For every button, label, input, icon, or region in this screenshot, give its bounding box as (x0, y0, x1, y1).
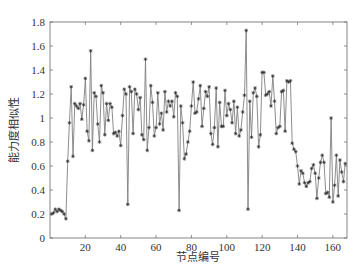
data-point-marker (195, 110, 199, 114)
y-tick-label: 0.6 (31, 160, 45, 172)
data-point-marker (274, 132, 278, 136)
data-point-marker (147, 126, 151, 130)
data-point-marker (255, 95, 259, 99)
data-point-marker (165, 110, 169, 114)
data-point-marker (292, 147, 296, 151)
data-point-marker (55, 210, 59, 214)
data-point-marker (257, 145, 261, 149)
data-point-marker (211, 143, 215, 147)
data-point-marker (183, 157, 187, 161)
data-point-marker (138, 96, 142, 100)
data-point-marker (52, 211, 56, 215)
data-point-marker (181, 121, 185, 125)
y-axis-label: 能力度相似性 (7, 97, 21, 163)
data-point-marker (198, 84, 202, 88)
data-point-marker (151, 101, 155, 105)
data-point-marker (225, 114, 229, 118)
data-point-marker (71, 155, 75, 159)
data-point-marker (271, 74, 275, 78)
data-point-marker (241, 110, 245, 114)
data-point-marker (158, 122, 162, 126)
data-point-marker (326, 191, 330, 195)
data-point-marker (319, 161, 323, 165)
y-tick-label: 1.6 (31, 40, 45, 52)
data-point-marker (68, 121, 72, 125)
y-tick-label: 0.2 (31, 208, 45, 220)
data-point-marker (175, 95, 179, 99)
x-axis-label: 节点编号 (176, 250, 220, 264)
data-point-marker (243, 93, 247, 97)
data-point-marker (209, 132, 213, 136)
data-point-marker (91, 149, 95, 153)
data-point-marker (84, 77, 88, 81)
data-point-marker (161, 128, 165, 132)
data-point-marker (144, 57, 148, 61)
data-point-marker (114, 131, 118, 135)
data-point-marker (172, 115, 176, 119)
data-point-marker (207, 85, 211, 89)
data-point-marker (98, 140, 102, 144)
data-point-marker (343, 162, 347, 166)
data-point-marker (310, 167, 314, 171)
data-point-marker (303, 181, 307, 185)
data-point-marker (124, 92, 128, 96)
data-point-marker (107, 119, 111, 123)
data-point-marker (216, 145, 220, 149)
data-point-marker (342, 180, 346, 184)
data-point-marker (78, 102, 82, 106)
data-point-marker (213, 126, 217, 130)
data-point-marker (333, 183, 337, 187)
data-point-marker (328, 195, 332, 199)
data-point-marker (308, 180, 312, 184)
data-point-marker (130, 90, 134, 94)
data-point-marker (312, 163, 316, 167)
data-point-marker (202, 107, 206, 111)
data-point-marker (64, 217, 68, 221)
data-point-marker (82, 103, 86, 107)
data-point-marker (223, 89, 227, 93)
data-point-marker (296, 164, 300, 168)
data-point-marker (234, 132, 238, 136)
data-point-marker (190, 104, 194, 108)
data-point-marker (273, 99, 277, 103)
y-tick-label: 1 (40, 112, 46, 124)
data-point-marker (154, 126, 158, 130)
data-point-marker (297, 182, 301, 186)
data-point-marker (227, 102, 231, 106)
data-point-marker (230, 121, 234, 125)
data-point-marker (73, 102, 77, 106)
data-point-marker (156, 91, 160, 95)
data-point-marker (267, 90, 271, 94)
x-tick-label: 120 (254, 241, 271, 253)
data-point-marker (163, 90, 167, 94)
data-point-marker (62, 212, 66, 216)
data-point-marker (221, 125, 225, 129)
data-point-marker (248, 99, 252, 103)
data-point-marker (206, 95, 210, 99)
data-point-marker (278, 125, 282, 129)
data-point-marker (191, 80, 195, 84)
data-point-marker (76, 107, 80, 111)
data-point-marker (177, 209, 181, 213)
x-tick-label: 160 (325, 241, 342, 253)
data-point-marker (214, 86, 218, 90)
data-point-marker (329, 116, 333, 120)
data-point-marker (122, 87, 126, 91)
data-point-marker (232, 99, 236, 103)
x-tick-label: 100 (219, 241, 236, 253)
y-tick-label: 0 (40, 232, 46, 244)
x-tick-label: 40 (115, 241, 127, 253)
data-point-marker (140, 133, 144, 137)
data-point-marker (149, 84, 153, 88)
data-point-marker (167, 99, 171, 103)
data-point-marker (174, 91, 178, 95)
data-point-marker (236, 105, 240, 109)
data-point-marker (105, 102, 109, 106)
x-tick-label: 60 (151, 241, 163, 253)
x-tick-label: 140 (289, 241, 306, 253)
data-point-marker (305, 185, 309, 189)
data-point-marker (66, 159, 70, 163)
data-point-marker (335, 153, 339, 157)
data-point-marker (160, 111, 164, 115)
data-point-marker (246, 207, 250, 211)
